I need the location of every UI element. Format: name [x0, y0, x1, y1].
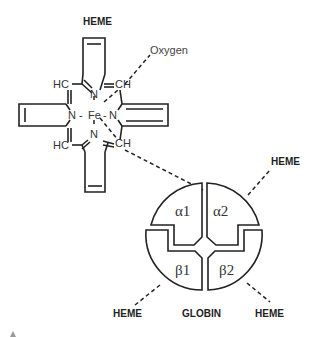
n-right: N: [109, 109, 117, 121]
label-alpha2: α2: [213, 203, 228, 220]
right-pyrrole-ring: [122, 104, 168, 126]
label-beta2: β2: [219, 262, 234, 279]
ch-top: CH: [115, 78, 131, 90]
fe-ch-dashed-bond: [104, 90, 118, 102]
dash-right: -: [103, 109, 107, 121]
globin-label: GLOBIN: [182, 308, 221, 319]
oxygen-label: Oxygen: [150, 44, 188, 56]
n-bottom: N: [90, 128, 98, 140]
triangle-marker: [10, 331, 16, 337]
n-left: N: [68, 109, 76, 121]
heme-title: HEME: [83, 16, 112, 27]
ch-bottom: CH: [115, 137, 131, 149]
fe-atom: Fe: [88, 109, 101, 121]
label-beta1: β1: [175, 262, 190, 279]
hc-bottom: HC: [53, 139, 69, 151]
heme-label-top-right: HEME: [271, 156, 300, 167]
heme-label-bottom-left: HEME: [113, 308, 142, 319]
n-top: N: [90, 88, 98, 100]
heme-label-bottom-right: HEME: [255, 308, 284, 319]
left-pyrrole-ring: [19, 104, 66, 126]
dash-left: -: [79, 109, 83, 121]
hc-top: HC: [53, 78, 69, 90]
globin-tetramer: [146, 183, 262, 290]
label-alpha1: α1: [175, 203, 190, 220]
